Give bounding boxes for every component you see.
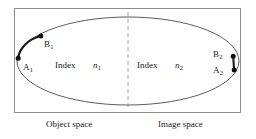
index-label-left-symbol: n1 [93, 61, 101, 71]
point-label-b2-subscript: 2 [219, 53, 223, 60]
point-label-a2: A2 [213, 66, 223, 76]
point-label-a1-letter: A [23, 62, 30, 72]
caption-image-space: Image space [158, 120, 203, 129]
point-b1-dot [38, 34, 43, 39]
point-label-a2-subscript: 2 [220, 69, 224, 76]
point-b2-dot [231, 54, 236, 59]
point-a2-dot [232, 68, 237, 73]
point-a1-dot [16, 56, 21, 61]
point-label-b2: B2 [213, 50, 223, 60]
index-right-n: n [175, 60, 180, 70]
point-label-b1-subscript: 1 [50, 43, 54, 50]
point-label-b1: B1 [44, 40, 54, 50]
index-label-left-word: Index [55, 61, 76, 70]
index-left-n: n [93, 60, 98, 70]
point-label-a2-letter: A [213, 65, 220, 75]
index-label-right-symbol: n2 [175, 61, 183, 71]
index-left-subscript: 1 [98, 64, 102, 71]
point-label-a1: A1 [23, 63, 33, 73]
outer-frame [15, 9, 241, 113]
point-label-a1-subscript: 1 [30, 66, 34, 73]
index-right-subscript: 2 [180, 64, 184, 71]
caption-object-space: Object space [46, 120, 92, 129]
optical-diagram-figure: A1 B1 B2 A2 Index n1 Index n2 Object spa… [0, 0, 256, 139]
index-label-right-word: Index [137, 61, 158, 70]
